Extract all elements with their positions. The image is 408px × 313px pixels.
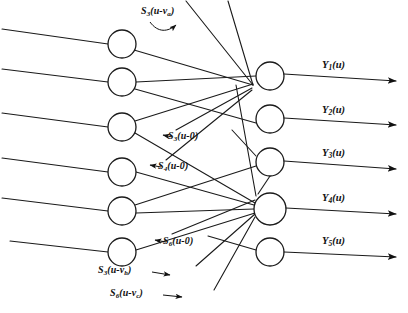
signal-tail: ) <box>190 235 193 246</box>
hidden-node-5[interactable] <box>108 197 136 225</box>
signal-tail: ) <box>185 160 188 171</box>
hidden-node-6[interactable] <box>108 238 136 266</box>
edge-hub-o4-c <box>214 217 255 290</box>
signal-arg: (u-v <box>119 287 136 298</box>
signal-label-s4-u-0: S4(u-0) <box>158 161 188 173</box>
edge-h4-o4 <box>136 172 254 205</box>
edge-cross-o1-down <box>186 1 253 85</box>
edge-h3-o4 <box>135 133 255 203</box>
output-node-5[interactable] <box>256 238 284 266</box>
hidden-node-1[interactable] <box>108 30 136 58</box>
output-node-4[interactable] <box>254 193 286 225</box>
signal-arg: (u-v <box>107 264 124 275</box>
signal-label-s3-u-0: S3(u-0) <box>168 131 198 143</box>
edge-to-o5 <box>208 236 256 250</box>
edge-cross-o1-up <box>228 1 253 85</box>
input-line-3 <box>2 113 108 127</box>
signal-arg: (u-0 <box>167 160 185 171</box>
output-arg: (u) <box>332 192 345 203</box>
edge-hub-o4-d <box>236 85 256 196</box>
edge-h3-o1 <box>135 84 253 121</box>
signal-tail: ) <box>128 264 131 275</box>
edge-h1-o1 <box>134 50 253 85</box>
output-arrow-5 <box>284 252 396 257</box>
output-node-2[interactable] <box>256 105 284 133</box>
signal-tail: ) <box>171 5 174 16</box>
signal-label-s6-u-0: S6(u-0) <box>163 236 193 248</box>
hidden-node-2[interactable] <box>108 68 136 96</box>
output-label-y2: Y2(u) <box>322 105 345 117</box>
pointer-s6-u-vc <box>163 295 182 297</box>
output-arrow-2 <box>284 118 396 125</box>
hidden-to-output-edges-group <box>134 1 270 290</box>
signal-label-s3-u-va: S3(u-va) <box>141 6 174 18</box>
signal-arg: (u-0 <box>172 235 190 246</box>
network-diagram-canvas <box>0 0 408 313</box>
hidden-nodes-group <box>108 30 136 266</box>
edge-h5-o4 <box>136 209 254 213</box>
edge-h5-o3 <box>135 166 256 205</box>
output-label-y4: Y4(u) <box>322 193 345 205</box>
output-arrow-1 <box>284 74 396 81</box>
input-line-6 <box>10 241 108 252</box>
pointer-s3-u-va <box>150 22 176 30</box>
network-diagram-figure: S3(u-va) S3(u-0) S4(u-0) S6(u-0) S3(u-vb… <box>0 0 408 313</box>
input-lines-group <box>2 29 108 252</box>
output-arg: (u) <box>332 104 345 115</box>
edge-diag-to-o3 <box>232 130 256 156</box>
signal-arg: (u-0 <box>177 130 195 141</box>
output-arrows-group <box>284 74 396 257</box>
output-node-1[interactable] <box>256 62 284 90</box>
signal-tail: ) <box>195 130 198 141</box>
hidden-node-4[interactable] <box>108 158 136 186</box>
output-arg: (u) <box>332 235 345 246</box>
hidden-node-3[interactable] <box>108 113 136 141</box>
edge-hub-o4-e <box>258 176 270 194</box>
input-line-5 <box>2 198 108 211</box>
input-line-2 <box>2 69 108 82</box>
signal-arg: (u-v <box>150 5 167 16</box>
output-arrow-4 <box>286 208 396 214</box>
output-arg: (u) <box>332 59 345 70</box>
pointer-s3-u-vb <box>152 272 170 275</box>
output-arrow-3 <box>284 161 396 169</box>
output-label-y3: Y3(u) <box>322 148 345 160</box>
signal-label-s3-u-vb: S3(u-vb) <box>98 265 131 277</box>
output-nodes-group <box>254 62 286 266</box>
input-line-4 <box>2 158 108 172</box>
output-arg: (u) <box>332 147 345 158</box>
signal-tail: ) <box>140 287 143 298</box>
input-line-1 <box>2 29 108 44</box>
signal-label-s6-u-vc: S6(u-vc) <box>110 288 143 300</box>
output-label-y1: Y1(u) <box>322 60 345 72</box>
output-node-3[interactable] <box>256 148 284 176</box>
output-label-y5: Y5(u) <box>322 236 345 248</box>
